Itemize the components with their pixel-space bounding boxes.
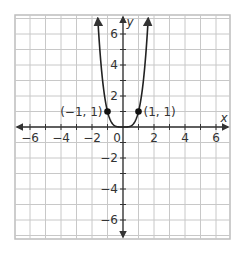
x-tick-label: 6 <box>212 131 220 145</box>
point-label: (1, 1) <box>144 105 176 119</box>
origin-label: 0 <box>113 131 121 145</box>
point-marker <box>135 108 142 115</box>
point-label: (−1, 1) <box>60 105 102 119</box>
point-marker <box>104 108 111 115</box>
y-axis-label: y <box>125 15 134 29</box>
y-tick-label: −4 <box>100 182 118 196</box>
x-tick-label: −4 <box>52 131 70 145</box>
x-tick-label: 2 <box>150 131 158 145</box>
y-tick-label: −6 <box>100 213 118 227</box>
tick-labels: −6−4−2246−6−4−22460xy <box>21 15 228 227</box>
graph-of-x-to-fourth: −6−4−2246−6−4−22460xy (−1, 1)(1, 1) <box>0 0 239 253</box>
y-tick-label: 2 <box>110 89 118 103</box>
x-axis-label: x <box>219 111 228 125</box>
x-tick-label: −6 <box>21 131 39 145</box>
y-tick-label: 6 <box>110 27 118 41</box>
x-tick-label: −2 <box>83 131 101 145</box>
y-tick-label: 4 <box>110 58 118 72</box>
x-tick-label: 4 <box>181 131 189 145</box>
y-tick-label: −2 <box>100 151 118 165</box>
